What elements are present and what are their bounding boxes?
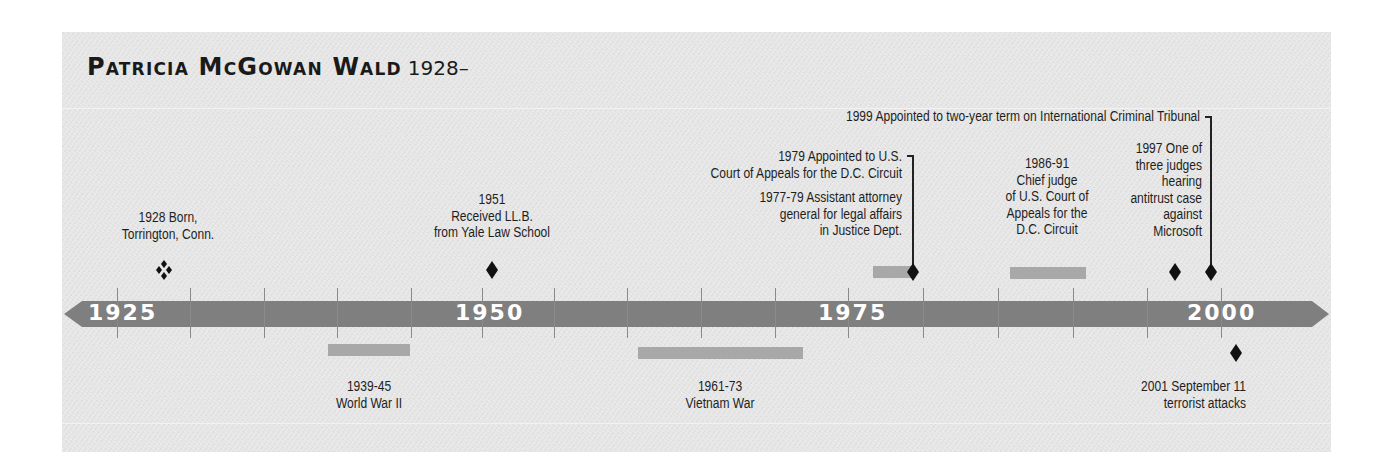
tick-1960 [627,288,628,338]
event-label-2001: 2001 September 11 terrorist attacks [1114,378,1246,411]
timeline-panel: Patricia McGowan Wald1928– 1925 1950 197… [62,32,1331,452]
tick-1930 [190,288,191,338]
diamond-icon-1999 [1205,263,1217,281]
connector-1999-v [1210,116,1212,272]
event-label-1928: 1928 Born, Torrington, Conn. [111,209,225,242]
tick-1935 [264,288,265,338]
period-bar-vietnam [638,347,803,359]
axis-label-1975: 1975 [818,300,887,325]
tick-1995 [1147,288,1148,338]
event-label-1999: 1999 Appointed to two-year term on Inter… [755,108,1200,125]
tick-1990 [1073,288,1074,338]
tick-1970 [775,288,776,338]
event-label-1997: 1997 One of three judges hearing antitru… [1099,140,1202,239]
diamond-icon-1979 [907,263,919,281]
event-label-1951: 1951 Received LL.B. from Yale Law School [419,191,565,241]
quad-diamond-icon [156,260,172,280]
tick-1985 [998,288,999,338]
period-bar-ww2 [328,344,410,356]
axis-label-1925: 1925 [88,300,157,325]
axis-label-1950: 1950 [455,300,524,325]
event-label-1977-79: 1977-79 Assistant attorney general for l… [696,189,902,239]
period-bar-1986-91 [1010,267,1086,279]
tick-1980 [923,288,924,338]
event-label-1939-45: 1939-45 World War II [317,378,420,411]
tick-1940 [337,288,338,338]
event-label-1979: 1979 Appointed to U.S. Court of Appeals … [644,148,902,181]
diamond-icon-1951 [486,261,498,279]
event-label-1986-91: 1986-91 Chief judge of U.S. Court of App… [987,155,1107,238]
diamond-icon-2001 [1230,344,1242,362]
tick-1945 [411,288,412,338]
diamond-icon-1997 [1169,263,1181,281]
tick-1965 [701,288,702,338]
tick-1955 [554,288,555,338]
event-label-1961-73: 1961-73 Vietnam War [668,378,771,411]
axis-label-2000: 2000 [1187,300,1256,325]
connector-1979-v [912,155,914,273]
